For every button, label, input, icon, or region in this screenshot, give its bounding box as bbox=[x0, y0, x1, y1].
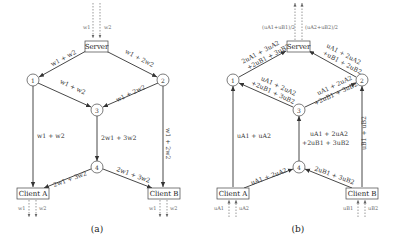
label-server-n2: w1 + 2w2 bbox=[124, 47, 155, 68]
label-n3-n4: 2w1 + 3w2 bbox=[101, 134, 137, 141]
diagram-canvas: w1 w2 w1 + w2 w1 + 2w2 w1 + w2 w1 + 2w2 … bbox=[0, 0, 395, 245]
client-b-label-b: Client B bbox=[348, 190, 377, 198]
server-right-label: (uA2+uB2)/2 bbox=[305, 24, 338, 30]
label-n4-n3-line1: uA1 + 2uA2 bbox=[310, 130, 348, 137]
label-n4-clientA: 2w1 + 3w2 bbox=[52, 169, 88, 188]
client-a-label-b: Client A bbox=[219, 190, 249, 198]
client-a-label: Client A bbox=[19, 190, 49, 198]
label-clientA-n4: uA1 + 2uA2 bbox=[250, 166, 288, 186]
server-left-label: (uA1+uB1)/2 bbox=[262, 24, 295, 30]
label-clientB-n2: uB1 + uB2 bbox=[360, 116, 367, 150]
input-uA2-label: uA2 bbox=[239, 205, 249, 211]
label-n2-clientB: w1 + 2w2 bbox=[165, 128, 172, 160]
node-2-label: 2 bbox=[161, 77, 165, 84]
label-n1-clientA: w1 + w2 bbox=[37, 132, 65, 139]
output-b-w2-label: w2 bbox=[170, 205, 177, 211]
output-a-w2-label: w2 bbox=[39, 205, 46, 211]
label-n1-n3: w1 + w2 bbox=[59, 78, 87, 96]
label-n1-server: 2uA1 + 3uA2 +2uB1 + 3uB2 bbox=[240, 35, 290, 71]
node-2-b-label: 2 bbox=[360, 77, 364, 84]
caption-b: (b) bbox=[292, 224, 305, 234]
diagram-b: (uA1+uB1)/2 (uA2+uB2)/2 2uA1 + 3uA2 +2uB… bbox=[214, 3, 378, 234]
input-uA1-label: uA1 bbox=[214, 205, 224, 211]
caption-a: (a) bbox=[91, 224, 103, 234]
label-n3-n2: uA1 + 2uA2 +2uB1 + 3uB2 bbox=[309, 73, 358, 107]
label-clientA-n1: uA1 + uA2 bbox=[237, 132, 271, 139]
node-1-b-label: 1 bbox=[231, 77, 235, 84]
label-n4-n3-line2: +2uB1 + 3uB2 bbox=[302, 139, 349, 146]
output-b-w1-label: w1 bbox=[149, 205, 156, 211]
input-uB2-label: uB2 bbox=[368, 205, 378, 211]
server-label-b: Server bbox=[287, 43, 311, 51]
input-w2-label: w2 bbox=[104, 24, 111, 30]
node-4-label: 4 bbox=[95, 164, 99, 171]
input-w1-label: w1 bbox=[83, 24, 90, 30]
output-a-w1-label: w1 bbox=[18, 205, 25, 211]
label-n2-n3: w1 + 2w2 bbox=[115, 83, 147, 103]
input-uB1-label: uB1 bbox=[343, 205, 353, 211]
node-3-label: 3 bbox=[95, 107, 99, 114]
client-b-label: Client B bbox=[150, 190, 179, 198]
server-label: Server bbox=[85, 43, 109, 51]
diagram-a: w1 w2 w1 + w2 w1 + 2w2 w1 + w2 w1 + 2w2 … bbox=[17, 3, 180, 234]
node-1-label: 1 bbox=[31, 77, 35, 84]
node-4-b-label: 4 bbox=[297, 164, 301, 171]
node-3-b-label: 3 bbox=[297, 107, 301, 114]
label-n3-n1: uA1 + 2uA2 +2uB1 + 3uB2 bbox=[250, 72, 299, 106]
